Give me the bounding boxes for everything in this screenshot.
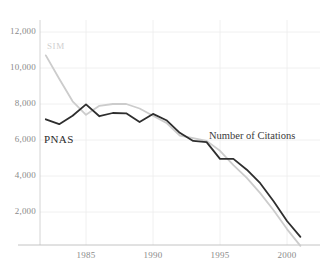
- y-tick-label-2000: 2,000: [0, 206, 36, 216]
- chart-annotation-number-of-citations: Number of Citations: [209, 130, 295, 141]
- x-tick-label-1990: 1990: [133, 250, 173, 260]
- x-tick-label-1995: 1995: [200, 250, 240, 260]
- series-line-pnas: [46, 104, 301, 236]
- series-label-sim: SIM: [47, 41, 65, 51]
- y-tick-label-4000: 4,000: [0, 170, 36, 180]
- y-tick-label-10000: 10,000: [0, 62, 36, 72]
- citations-line-chart: 2,0004,0006,0008,00010,00012,000 1985199…: [0, 0, 323, 277]
- y-tick-label-6000: 6,000: [0, 134, 36, 144]
- x-tick-label-2000: 2000: [267, 250, 307, 260]
- series-line-sim: [46, 55, 301, 245]
- y-tick-label-12000: 12,000: [0, 26, 36, 36]
- x-tick-label-1985: 1985: [66, 250, 106, 260]
- series-label-pnas: PNAS: [44, 133, 74, 145]
- y-tick-label-8000: 8,000: [0, 98, 36, 108]
- horizontal-gridlines: [40, 32, 320, 212]
